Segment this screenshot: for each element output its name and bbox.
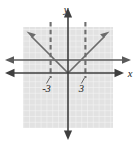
tick-label-three: 3: [78, 83, 84, 94]
graph-canvas: -3 3 y x: [0, 0, 137, 142]
y-axis-label: y: [63, 4, 69, 15]
absolute-value-graph-figure: -3 3 y x: [0, 0, 137, 142]
x-axis-label: x: [127, 68, 133, 79]
tick-label-negative-three: -3: [42, 83, 51, 94]
